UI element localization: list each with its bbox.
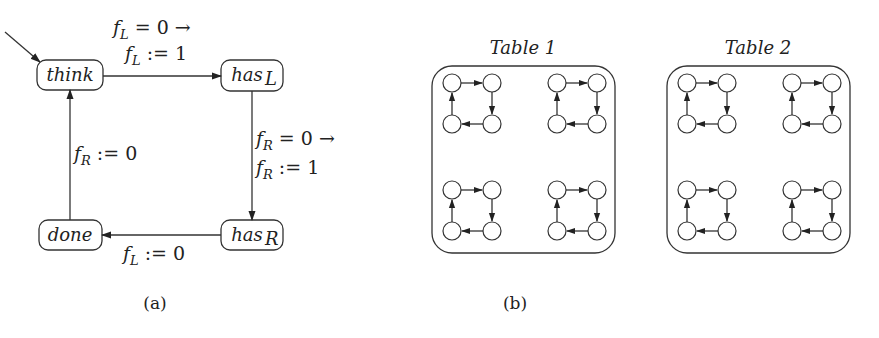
cycle-node — [443, 181, 461, 199]
cycle-node — [483, 222, 501, 240]
caption-b: (b) — [503, 293, 527, 313]
cycle-node — [783, 181, 801, 199]
cycle-node — [548, 115, 566, 133]
state-done-label: done — [48, 224, 93, 245]
cycle-node — [483, 115, 501, 133]
cycle-node — [443, 222, 461, 240]
cycle-node — [678, 181, 696, 199]
cycle-node — [678, 115, 696, 133]
state-has-r-label: has — [231, 224, 263, 245]
cycle-node — [783, 74, 801, 92]
state-think-label: think — [46, 64, 93, 85]
cycle-node — [783, 222, 801, 240]
cycle-node — [823, 222, 841, 240]
cycle-node — [483, 74, 501, 92]
label-think-to-has-l: fL= 0 → fL:= 1 — [111, 16, 191, 68]
cycle-node — [718, 181, 736, 199]
state-has-l-subscript: L — [264, 68, 277, 89]
cycle-node — [718, 74, 736, 92]
label-has-l-to-has-r: fR= 0 → fR:= 1 — [254, 127, 335, 182]
svg-text:fR:= 0: fR:= 0 — [72, 142, 137, 168]
svg-text:fL:= 1: fL:= 1 — [123, 42, 187, 68]
cycle-node — [678, 222, 696, 240]
figure: think has L has R done fL= 0 → fL:= 1 — [0, 0, 879, 338]
cycle-node — [548, 74, 566, 92]
label-done-to-think: fR:= 0 — [72, 142, 137, 168]
table-2-title: Table 2 — [725, 37, 791, 58]
cycle-node — [588, 115, 606, 133]
panel-a-state-machine: think has L has R done fL= 0 → fL:= 1 — [5, 16, 335, 313]
svg-text:fR:= 1: fR:= 1 — [254, 156, 319, 182]
caption-a: (a) — [143, 293, 166, 313]
table-1-title: Table 1 — [490, 37, 556, 58]
cycle-node — [548, 222, 566, 240]
cycle-node — [823, 181, 841, 199]
label-has-r-to-done: fL:= 0 — [121, 242, 185, 268]
state-has-l-label: has — [231, 64, 263, 85]
state-has-l: has L — [221, 60, 283, 91]
cycle-node — [588, 74, 606, 92]
cycle-node — [443, 115, 461, 133]
cycle-node — [718, 222, 736, 240]
cycle-node — [443, 74, 461, 92]
cycle-node — [823, 74, 841, 92]
cycle-node — [678, 74, 696, 92]
table-2: Table 2 — [667, 37, 850, 253]
svg-text:fL:= 0: fL:= 0 — [121, 242, 185, 268]
cycle-node — [483, 181, 501, 199]
cycle-node — [783, 115, 801, 133]
svg-text:fL= 0 →: fL= 0 → — [111, 16, 191, 42]
state-think: think — [37, 60, 103, 90]
cycle-node — [588, 181, 606, 199]
cycle-node — [548, 181, 566, 199]
cycle-node — [823, 115, 841, 133]
state-done: done — [39, 220, 102, 250]
cycle-node — [588, 222, 606, 240]
initial-state-arrow — [5, 32, 40, 62]
svg-text:fR= 0 →: fR= 0 → — [254, 127, 335, 153]
table-1: Table 1 — [432, 37, 615, 253]
panel-b-tables: Table 1 Table 2 (b) — [432, 37, 850, 313]
cycle-node — [718, 115, 736, 133]
state-has-r: has R — [221, 220, 283, 250]
state-has-r-subscript: R — [264, 228, 279, 249]
